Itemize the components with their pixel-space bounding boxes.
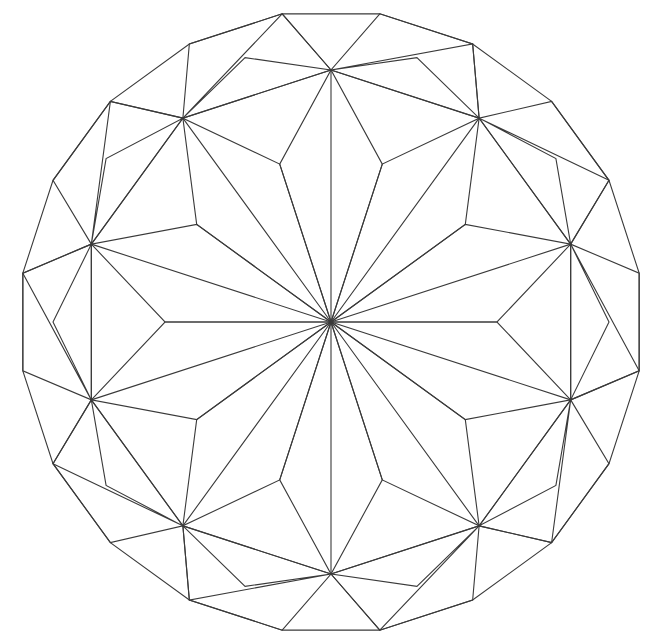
- decagonal-star-pattern: Decagonal Star Geometric Pattern Concent…: [0, 0, 664, 643]
- figure-root: Decagonal Star Geometric Pattern Concent…: [0, 0, 664, 643]
